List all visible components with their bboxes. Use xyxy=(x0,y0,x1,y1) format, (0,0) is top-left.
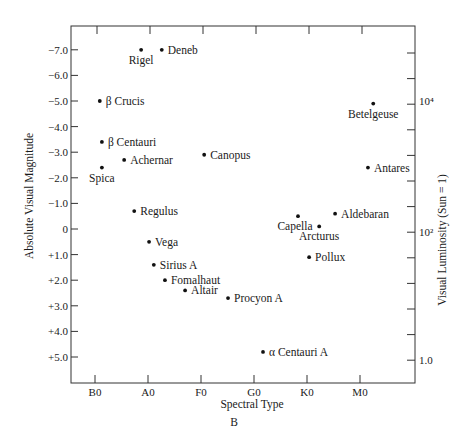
star-point: Regulus xyxy=(132,205,178,218)
figure-caption: B xyxy=(230,416,238,428)
star-point: Canopus xyxy=(202,149,251,162)
y-tick-label: +2.0 xyxy=(48,274,68,286)
x-tick-label: A0 xyxy=(141,386,155,398)
y-axis-title: Absolute Visual Magnitude xyxy=(23,133,36,259)
y-tick-label: −6.0 xyxy=(48,69,68,81)
star-point: Spica xyxy=(89,166,115,185)
star-point: Deneb xyxy=(160,44,198,56)
x-tick-label: K0 xyxy=(300,386,314,398)
y-tick-label: −3.0 xyxy=(48,146,68,158)
star-label: α Centauri A xyxy=(269,346,329,358)
star-label: Pollux xyxy=(315,251,345,263)
star-point: β Centauri xyxy=(100,136,156,149)
star-label: Spica xyxy=(89,172,115,185)
hr-diagram-chart: B0A0F0G0K0M0 −7.0−6.0−5.0−4.0−3.0−2.0−1.… xyxy=(0,0,468,447)
y-tick-label: −2.0 xyxy=(48,172,68,184)
x-axis-title: Spectral Type xyxy=(220,398,283,411)
star-label: Procyon A xyxy=(234,292,284,305)
x-tick-label: M0 xyxy=(352,386,368,398)
y-tick-label: −1.0 xyxy=(48,197,68,209)
x-tick-label: B0 xyxy=(89,386,102,398)
star-label: Deneb xyxy=(168,44,198,56)
plot-frame xyxy=(71,26,415,383)
star-label: Aldebaran xyxy=(341,208,389,220)
star-label: Rigel xyxy=(129,54,154,67)
star-label: Betelgeuse xyxy=(348,108,398,121)
star-point: Rigel xyxy=(129,48,154,67)
x-axis-ticks: B0A0F0G0K0M0 xyxy=(89,26,369,398)
star-label: Regulus xyxy=(140,205,178,218)
star-label: β Centauri xyxy=(108,136,156,149)
star-point: Altair xyxy=(183,284,218,296)
y-tick-label: +5.0 xyxy=(48,351,68,363)
data-points: RigelDenebβ Crucisβ CentauriAchernarSpic… xyxy=(89,44,410,358)
star-point: Procyon A xyxy=(226,292,283,305)
star-label: Altair xyxy=(191,284,218,296)
right-axis-ticks: 10⁴10²1.0 xyxy=(407,53,434,366)
star-label: Vega xyxy=(155,236,178,249)
star-label: Antares xyxy=(374,162,410,174)
x-tick-label: F0 xyxy=(195,386,207,398)
y-tick-label: −5.0 xyxy=(48,95,68,107)
star-point: β Crucis xyxy=(98,95,145,108)
y-tick-label: +3.0 xyxy=(48,300,68,312)
star-point: Achernar xyxy=(122,154,173,166)
star-point: Pollux xyxy=(307,251,345,263)
star-point: Betelgeuse xyxy=(348,102,398,121)
star-label: Arcturus xyxy=(299,230,340,242)
y-tick-label: +4.0 xyxy=(48,325,68,337)
star-point: Vega xyxy=(147,236,178,249)
x-tick-label: G0 xyxy=(247,386,261,398)
right-tick-label: 10² xyxy=(419,226,434,238)
y-tick-label: −7.0 xyxy=(48,44,68,56)
right-tick-label: 1.0 xyxy=(419,354,433,366)
star-point: Aldebaran xyxy=(333,208,389,220)
y-tick-label: 0 xyxy=(63,223,69,235)
y-tick-label: +1.0 xyxy=(48,249,68,261)
star-label: Canopus xyxy=(210,149,251,162)
right-axis-title: Visual Luminosity (Sun = 1) xyxy=(436,174,449,306)
star-label: β Crucis xyxy=(106,95,145,108)
star-point: α Centauri A xyxy=(261,346,329,358)
y-tick-label: −4.0 xyxy=(48,121,68,133)
star-point: Sirius A xyxy=(152,259,198,271)
star-label: Achernar xyxy=(130,154,173,166)
right-tick-label: 10⁴ xyxy=(419,95,434,107)
star-point: Antares xyxy=(366,162,410,174)
star-label: Sirius A xyxy=(160,259,198,271)
y-axis-ticks: −7.0−6.0−5.0−4.0−3.0−2.0−1.00+1.0+2.0+3.… xyxy=(48,44,78,363)
